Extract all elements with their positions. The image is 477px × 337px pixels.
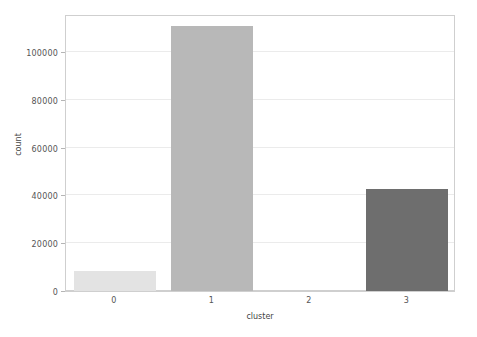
y-tick-label-0: 0 xyxy=(0,288,58,297)
x-tick-label-1: 1 xyxy=(209,296,214,305)
gridline-60000 xyxy=(66,147,454,148)
x-axis-tick-labels: 0123 xyxy=(65,296,455,312)
plot-area xyxy=(65,15,455,292)
bar-0[interactable] xyxy=(74,271,156,291)
x-tick-label-2: 2 xyxy=(306,296,311,305)
x-tick-label-3: 3 xyxy=(404,296,409,305)
bar-chart-figure: count 020000400006000080000100000 0123 c… xyxy=(0,0,477,337)
bar-1[interactable] xyxy=(171,26,253,291)
y-tick-label-60000: 60000 xyxy=(0,144,58,153)
gridline-100000 xyxy=(66,51,454,52)
y-axis-tick-labels: 020000400006000080000100000 xyxy=(0,15,58,292)
y-tick-label-20000: 20000 xyxy=(0,240,58,249)
y-tick-label-80000: 80000 xyxy=(0,96,58,105)
x-tick-label-0: 0 xyxy=(111,296,116,305)
y-tick-label-100000: 100000 xyxy=(0,49,58,58)
gridline-80000 xyxy=(66,99,454,100)
bar-3[interactable] xyxy=(366,189,448,291)
y-tick-label-40000: 40000 xyxy=(0,192,58,201)
x-axis-title: cluster xyxy=(65,312,455,321)
